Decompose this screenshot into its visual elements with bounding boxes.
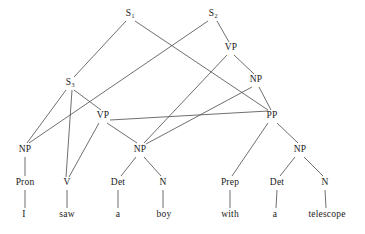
tree-edge-NPobj-to-N1 — [144, 157, 161, 176]
tree-node-subscript: 2 — [214, 13, 217, 19]
tree-node-label: Pron — [16, 177, 35, 187]
tree-node-label: PP — [267, 110, 278, 120]
tree-edge-VPlow-to-PP — [110, 111, 268, 120]
tree-node-label: NP — [250, 74, 263, 84]
tree-edge-NPhigh-to-PP — [259, 87, 271, 110]
tree-node-label: a — [116, 209, 120, 219]
tree-node-n1: N — [159, 178, 166, 188]
tree-edge-VPlow-to-V — [69, 123, 99, 177]
tree-node-label: I — [22, 209, 25, 219]
tree-node-label: S — [209, 8, 214, 18]
tree-node-w_a1: a — [116, 210, 120, 220]
tree-node-label: NP — [19, 144, 32, 154]
tree-node-subscript: 3 — [71, 82, 74, 88]
tree-node-label: N — [159, 177, 166, 187]
tree-node-w_a2: a — [273, 210, 277, 220]
tree-edge-PP-to-Prep — [232, 123, 268, 176]
tree-node-label: VP — [97, 110, 110, 120]
tree-node-label: boy — [157, 209, 172, 219]
tree-node-s1: S1 — [126, 9, 135, 19]
tree-edge-S1-to-PP — [135, 21, 268, 110]
tree-node-vplow: VP — [97, 111, 110, 121]
tree-node-label: NP — [134, 144, 147, 154]
tree-edge-NPhigh-to-NPobj — [146, 87, 252, 144]
tree-edge-PP-to-NPpp — [277, 123, 298, 143]
tree-node-subscript: 1 — [131, 13, 134, 19]
tree-node-n2: N — [321, 178, 328, 188]
tree-edge-S3-to-NPsubj — [27, 90, 66, 143]
tree-edge-S3-to-V — [66, 90, 72, 177]
tree-node-det1: Det — [111, 178, 125, 188]
tree-node-v: V — [63, 178, 70, 188]
tree-node-label: NP — [294, 144, 307, 154]
tree-node-label: with — [221, 209, 239, 219]
syntax-tree-diagram: S1S2VPS3NPVPPPNPNPNPPronVDetNPrepDetNIsa… — [0, 0, 365, 234]
tree-edge-NPpp-to-Det2 — [280, 157, 295, 176]
tree-node-w_with: with — [221, 210, 239, 220]
tree-node-label: V — [63, 177, 70, 187]
tree-node-label: S — [66, 77, 71, 87]
tree-edge-N2-to-w_tel — [325, 190, 326, 208]
tree-edge-S1-to-S3 — [74, 21, 126, 77]
tree-node-npobj: NP — [134, 145, 147, 155]
tree-node-label: saw — [59, 209, 74, 219]
tree-node-s3: S3 — [66, 78, 75, 88]
tree-edge-S3-to-VPlow — [74, 90, 101, 110]
tree-node-label: N — [321, 177, 328, 187]
tree-node-label: Det — [111, 177, 125, 187]
tree-node-w_tel: telescope — [308, 210, 345, 220]
tree-edge-NPpp-to-N2 — [304, 157, 323, 176]
tree-edge-Det2-to-w_a2 — [276, 190, 277, 208]
tree-node-nphigh: NP — [250, 75, 263, 85]
tree-node-label: S — [126, 8, 131, 18]
tree-edge-VPhigh-to-NPobj — [144, 55, 227, 143]
tree-edge-VPhigh-to-NPhigh — [234, 55, 254, 74]
tree-node-npsubj: NP — [19, 145, 32, 155]
tree-node-vphigh: VP — [225, 43, 238, 53]
tree-edge-S2-to-VPhigh — [217, 21, 229, 42]
tree-node-label: telescope — [308, 209, 345, 219]
tree-node-s2: S2 — [209, 9, 218, 19]
tree-node-w_boy: boy — [157, 210, 172, 220]
tree-node-pron: Pron — [16, 178, 35, 188]
tree-node-nppp: NP — [294, 145, 307, 155]
tree-node-w_i: I — [22, 210, 25, 220]
tree-edge-VPlow-to-NPobj — [107, 123, 137, 143]
tree-node-w_saw: saw — [59, 210, 74, 220]
tree-node-label: Det — [270, 177, 284, 187]
tree-node-label: a — [273, 209, 277, 219]
tree-node-pp: PP — [267, 111, 278, 121]
tree-edges-layer — [0, 0, 365, 234]
tree-node-label: VP — [225, 42, 238, 52]
tree-node-det2: Det — [270, 178, 284, 188]
tree-edge-NPobj-to-Det1 — [121, 157, 136, 176]
tree-node-prep: Prep — [221, 178, 239, 188]
tree-node-label: Prep — [221, 177, 239, 187]
